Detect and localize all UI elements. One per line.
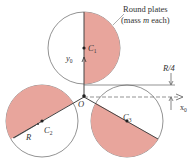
x0-label: x0 (180, 103, 187, 113)
radius-label: R (25, 132, 32, 142)
plate-2 (6, 85, 84, 157)
plates-diagram: Round plates (mass m each) C1 y0 O C2 R … (0, 0, 195, 163)
c1-point (82, 46, 85, 49)
title-line2: (mass m each) (121, 15, 170, 25)
origin-point (82, 94, 86, 98)
plate-1 (48, 12, 120, 97)
c2-point (40, 119, 43, 122)
r4-label: R/4 (162, 63, 176, 73)
origin-label: O (78, 99, 84, 109)
title-line1: Round plates (123, 4, 168, 14)
